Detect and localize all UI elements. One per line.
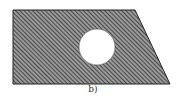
circular-hole xyxy=(79,29,115,65)
figure-caption: b) xyxy=(0,84,186,94)
